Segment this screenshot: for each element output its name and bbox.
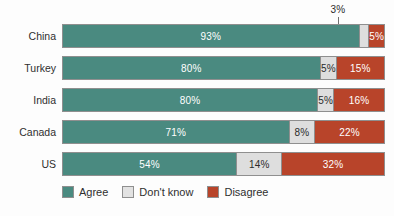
bar-segment-disagree: 15% [336, 57, 384, 79]
bar-segment-agree: 93% [63, 25, 359, 47]
chart-legend: AgreeDon't knowDisagree [62, 186, 282, 198]
bar-segment-dont-know: 5% [317, 89, 333, 111]
bar-segment-dont-know: 5% [320, 57, 336, 79]
stacked-bar: 80%5%15% [62, 56, 385, 80]
table-row: China93%5% [0, 24, 394, 48]
row-label-india: India [0, 88, 56, 112]
table-row: India80%5%16% [0, 88, 394, 112]
row-label-canada: Canada [0, 120, 56, 144]
legend-item-dont-know[interactable]: Don't know [122, 186, 193, 198]
legend-label: Don't know [139, 186, 193, 198]
table-row: Turkey80%5%15% [0, 56, 394, 80]
stacked-bar: 54%14%32% [62, 152, 385, 176]
legend-swatch-dont-know-icon [122, 186, 134, 198]
bar-segment-disagree: 16% [333, 89, 384, 111]
bar-segment-dont-know: 8% [289, 121, 314, 143]
bar-segment-dont-know: 14% [236, 153, 281, 175]
table-row: Canada71%8%22% [0, 120, 394, 144]
stacked-bar-chart: 3% China93%5%Turkey80%5%15%India80%5%16%… [0, 0, 394, 216]
bar-segment-agree: 80% [63, 57, 320, 79]
legend-label: Disagree [224, 186, 268, 198]
bar-segment-dont-know [359, 25, 369, 47]
row-label-china: China [0, 24, 56, 48]
legend-swatch-disagree-icon [207, 186, 219, 198]
legend-item-agree[interactable]: Agree [62, 186, 108, 198]
bar-segment-disagree: 5% [368, 25, 384, 47]
stacked-bar: 71%8%22% [62, 120, 385, 144]
stacked-bar: 93%5% [62, 24, 385, 48]
stacked-bar: 80%5%16% [62, 88, 385, 112]
row-label-us: US [0, 152, 56, 176]
legend-label: Agree [79, 186, 108, 198]
bar-segment-agree: 71% [63, 121, 289, 143]
table-row: US54%14%32% [0, 152, 394, 176]
chart-rows: China93%5%Turkey80%5%15%India80%5%16%Can… [0, 24, 394, 184]
legend-item-disagree[interactable]: Disagree [207, 186, 268, 198]
bar-segment-disagree: 32% [281, 153, 384, 175]
legend-swatch-agree-icon [62, 186, 74, 198]
row-label-turkey: Turkey [0, 56, 56, 80]
bar-segment-agree: 54% [63, 153, 236, 175]
bar-segment-agree: 80% [63, 89, 317, 111]
bar-segment-disagree: 22% [314, 121, 384, 143]
